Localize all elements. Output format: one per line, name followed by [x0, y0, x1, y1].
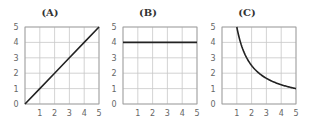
svg-text:1: 1 [234, 109, 239, 118]
svg-text:3: 3 [210, 54, 215, 63]
svg-text:4: 4 [210, 38, 215, 47]
chart-plot: 01234512345 [98, 0, 208, 121]
svg-text:2: 2 [249, 109, 254, 118]
svg-text:2: 2 [111, 69, 116, 78]
svg-text:1: 1 [210, 85, 215, 94]
svg-text:2: 2 [210, 69, 215, 78]
chart-c: (C) 01234512345 [197, 0, 297, 121]
svg-text:2: 2 [150, 109, 155, 118]
svg-text:2: 2 [13, 69, 18, 78]
svg-text:0: 0 [210, 100, 215, 109]
svg-text:1: 1 [37, 109, 42, 118]
chart-plot: 01234512345 [197, 0, 307, 121]
chart-plot: 01234512345 [0, 0, 110, 121]
svg-text:4: 4 [82, 109, 87, 118]
svg-text:1: 1 [13, 85, 18, 94]
svg-text:4: 4 [180, 109, 185, 118]
svg-text:3: 3 [264, 109, 269, 118]
svg-text:4: 4 [279, 109, 284, 118]
svg-text:3: 3 [165, 109, 170, 118]
svg-text:3: 3 [111, 54, 116, 63]
svg-text:5: 5 [111, 23, 116, 32]
svg-text:1: 1 [111, 85, 116, 94]
svg-text:5: 5 [13, 23, 18, 32]
svg-text:2: 2 [52, 109, 57, 118]
svg-text:4: 4 [111, 38, 116, 47]
svg-text:0: 0 [111, 100, 116, 109]
svg-text:3: 3 [67, 109, 72, 118]
svg-text:3: 3 [13, 54, 18, 63]
svg-text:5: 5 [210, 23, 215, 32]
svg-text:1: 1 [135, 109, 140, 118]
svg-text:4: 4 [13, 38, 18, 47]
chart-a: (A) 01234512345 [0, 0, 100, 121]
svg-text:0: 0 [13, 100, 18, 109]
chart-b: (B) 01234512345 [98, 0, 198, 121]
svg-text:5: 5 [293, 109, 298, 118]
